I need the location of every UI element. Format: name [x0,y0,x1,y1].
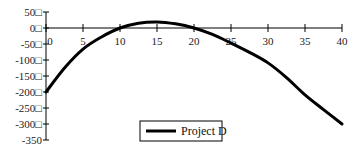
x-tick-label: 0 [47,35,53,47]
y-tick-label: -350 [22,134,43,146]
y-axis: 50□0□-50□-100□-150□-200□-250□-300□-350 [15,6,49,146]
y-tick-label: -300□ [15,118,42,130]
y-tick-label: 0□ [30,22,43,34]
y-tick-label: -200□ [15,86,42,98]
y-tick-label: -250□ [15,102,42,114]
legend: Project D [140,121,227,141]
x-tick-label: 40 [337,35,349,47]
x-tick-label: 15 [152,35,164,47]
x-tick-label: 10 [115,35,127,47]
npv-line-chart: 50□0□-50□-100□-150□-200□-250□-300□-350 0… [0,0,364,153]
y-tick-label: -150□ [15,70,42,82]
y-tick-label: -100□ [15,54,42,66]
x-tick-label: 5 [80,35,86,47]
x-tick-label: 35 [300,35,312,47]
x-tick-label: 30 [263,35,275,47]
legend-label-project-d: Project D [181,124,227,138]
y-tick-label: -50□ [21,38,43,50]
x-tick-label: 20 [189,35,201,47]
y-tick-label: 50□ [24,6,42,18]
